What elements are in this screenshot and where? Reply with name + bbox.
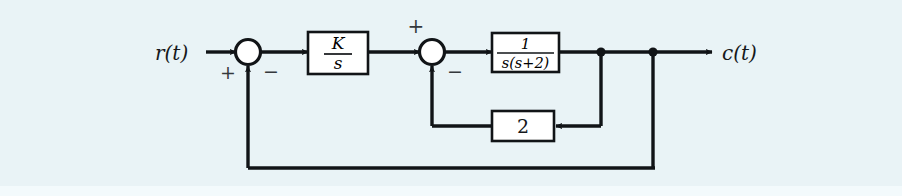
- controller-denominator: s: [334, 53, 343, 73]
- node-outer-loop-tap: [648, 47, 657, 56]
- input-signal-label: r(t): [155, 41, 188, 65]
- node-inner-loop-tap: [596, 47, 605, 56]
- block-diagram-figure: + − + − K s 1 s(s+2) 2 r(t) c(t): [0, 0, 902, 196]
- sum1-plus-sign: +: [220, 61, 236, 83]
- sum1-minus-sign: −: [263, 60, 279, 82]
- summing-junction-2: [420, 40, 445, 65]
- output-signal-label: c(t): [722, 41, 757, 65]
- sum2-minus-sign: −: [447, 60, 463, 82]
- plant-denominator: s(s+2): [502, 55, 550, 71]
- controller-numerator: K: [331, 33, 346, 53]
- inner-feedback-gain-value: 2: [517, 115, 529, 137]
- sum2-plus-sign: +: [408, 14, 425, 38]
- diagram-canvas: + − + − K s 1 s(s+2) 2 r(t) c(t): [0, 0, 902, 196]
- summing-junction-1: [236, 40, 261, 65]
- plant-numerator: 1: [521, 35, 531, 53]
